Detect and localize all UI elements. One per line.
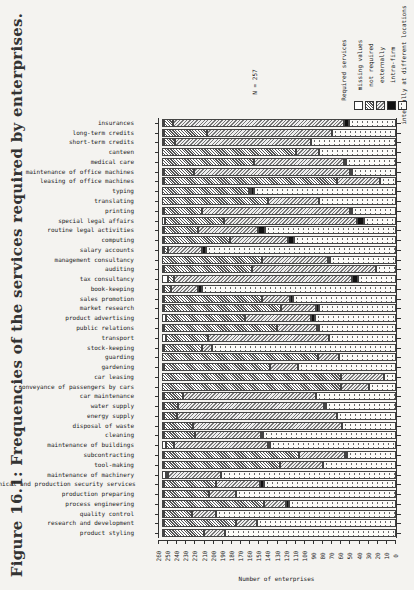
bar-row <box>159 177 396 185</box>
category-label: special legal affairs <box>0 217 134 225</box>
legend-label: intra-firm <box>389 47 396 83</box>
bar-row <box>159 353 396 361</box>
bar-row <box>159 529 396 537</box>
bar-segment <box>164 177 337 185</box>
bar-row <box>159 373 396 381</box>
bar-segment <box>384 373 396 381</box>
bar-row <box>159 246 396 254</box>
bar-segment <box>174 275 353 283</box>
y-tick <box>397 435 401 436</box>
category-label: transport <box>0 334 134 342</box>
category-label: quality control <box>0 510 134 518</box>
bar-segment <box>195 431 260 439</box>
legend-item-missing: missing values <box>354 35 364 111</box>
y-tick <box>397 230 401 231</box>
bar-segment <box>315 314 396 322</box>
bar-segment <box>164 363 270 371</box>
bar-segment <box>352 207 396 215</box>
bar-segment <box>311 138 396 146</box>
bar-segment <box>192 510 216 518</box>
bar-segment <box>209 490 236 498</box>
bar-segment <box>216 510 396 518</box>
bar-segment <box>352 168 396 176</box>
bar-segment <box>319 148 396 156</box>
y-tick <box>397 367 401 368</box>
x-tick <box>340 540 341 544</box>
bar-row <box>159 519 396 527</box>
bar-segment <box>349 119 396 127</box>
bar-segment <box>289 500 396 508</box>
y-tick <box>397 211 401 212</box>
x-tick <box>368 540 369 544</box>
y-tick <box>397 123 401 124</box>
bar-row <box>159 363 396 371</box>
bar-row <box>159 334 396 342</box>
legend-swatch <box>376 101 385 110</box>
category-label: translating <box>0 197 134 205</box>
bar-row <box>159 441 396 449</box>
bar-segment <box>337 412 396 420</box>
bar-segment <box>164 324 277 332</box>
category-label: technical and production security servic… <box>0 480 134 488</box>
bar-segment <box>164 451 300 459</box>
bar-segment <box>202 207 350 215</box>
bar-segment <box>216 480 260 488</box>
bar-segment <box>178 402 324 410</box>
category-label: leasing of office machines <box>0 177 134 185</box>
bar-segment <box>341 383 368 391</box>
y-tick <box>397 172 401 173</box>
category-label: stock-keeping <box>0 344 134 352</box>
x-axis-label: Number of enterprises <box>158 575 395 582</box>
x-tick <box>167 540 168 544</box>
bar-segment <box>358 275 396 283</box>
bar-segment <box>198 226 258 234</box>
bar-segment <box>206 246 396 254</box>
bar-segment <box>254 158 344 166</box>
y-tick <box>397 191 401 192</box>
bar-row <box>159 236 396 244</box>
category-label: computing <box>0 236 134 244</box>
category-label: product styling <box>0 529 134 537</box>
x-tick <box>158 540 159 544</box>
x-tick <box>176 540 177 544</box>
bar-segment <box>164 500 264 508</box>
bar-row <box>159 500 396 508</box>
bar-segment <box>262 256 327 264</box>
bar-segment <box>326 402 396 410</box>
bar-segment <box>164 529 204 537</box>
bar-segment <box>268 197 319 205</box>
category-label: subcontracting <box>0 451 134 459</box>
x-tick <box>304 540 305 544</box>
bar-row <box>159 471 396 479</box>
x-tick <box>249 540 250 544</box>
x-tick <box>222 540 223 544</box>
bar-segment <box>319 324 396 332</box>
bar-segment <box>164 265 252 273</box>
bar-segment <box>230 236 288 244</box>
category-label: energy supply <box>0 412 134 420</box>
bar-segment <box>337 177 380 185</box>
x-tick <box>349 540 350 544</box>
y-tick <box>397 484 401 485</box>
x-tick <box>240 540 241 544</box>
y-tick <box>397 465 401 466</box>
bar-segment <box>164 304 281 312</box>
x-tick <box>194 540 195 544</box>
y-tick <box>397 250 401 251</box>
category-label: disposal of waste <box>0 422 134 430</box>
y-tick <box>397 377 401 378</box>
y-tick <box>397 426 401 427</box>
bar-segment <box>164 422 193 430</box>
bar-segment <box>323 461 396 469</box>
category-label: auditing <box>0 265 134 273</box>
bar-segment <box>177 412 336 420</box>
bar-segment <box>316 392 396 400</box>
bar-row <box>159 392 396 400</box>
x-tick <box>258 540 259 544</box>
bar-segment <box>329 334 396 342</box>
bar-segment <box>212 344 396 352</box>
category-label: market research <box>0 304 134 312</box>
bar-segment <box>224 217 357 225</box>
y-tick <box>397 279 401 280</box>
x-tick <box>204 540 205 544</box>
